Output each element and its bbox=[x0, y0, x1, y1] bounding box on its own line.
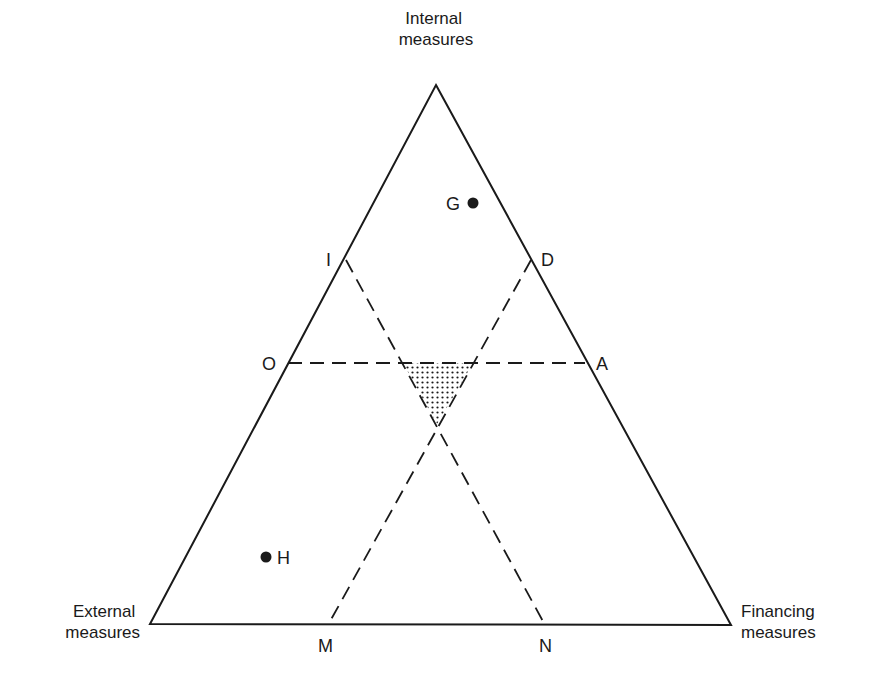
vertex-label-external: External measures bbox=[65, 602, 140, 642]
label-m: M bbox=[318, 636, 333, 656]
shaded-feasible-region bbox=[403, 363, 473, 424]
dashed-line-d-m bbox=[328, 260, 531, 625]
label-d: D bbox=[541, 250, 554, 270]
ternary-diagram: Internal measures External measures Fina… bbox=[0, 0, 873, 690]
point-h-dot bbox=[261, 552, 272, 563]
point-g-dot bbox=[468, 198, 479, 209]
label-i: I bbox=[326, 250, 331, 270]
vertex-label-financing: Financing measures bbox=[741, 602, 819, 642]
main-triangle bbox=[150, 85, 731, 625]
label-n: N bbox=[539, 636, 552, 656]
label-a: A bbox=[596, 354, 608, 374]
dashed-line-i-n bbox=[346, 260, 545, 625]
dashed-lines bbox=[288, 260, 585, 625]
label-h: H bbox=[277, 548, 290, 568]
vertex-label-internal: Internal measures bbox=[399, 9, 474, 49]
label-o: O bbox=[262, 354, 276, 374]
label-g: G bbox=[446, 194, 460, 214]
